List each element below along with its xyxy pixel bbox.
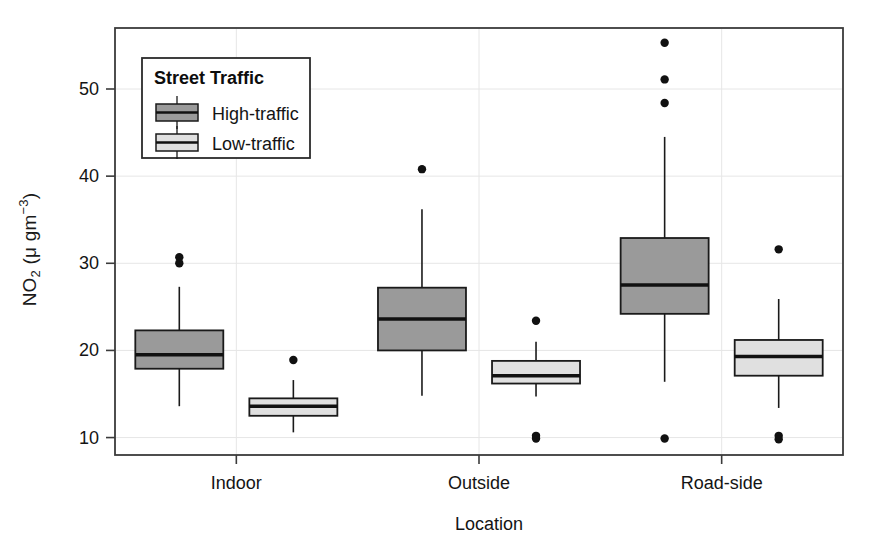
y-axis-title-base: NO xyxy=(19,278,40,307)
outlier-point xyxy=(774,435,782,443)
outlier-point xyxy=(289,356,297,364)
x-tick-label-road-side: Road-side xyxy=(681,473,763,493)
boxplot-high-traffic-road-side xyxy=(621,39,709,443)
x-tick-label-outside: Outside xyxy=(448,473,510,493)
outlier-point xyxy=(774,245,782,253)
legend-item-label: High-traffic xyxy=(212,104,299,124)
legend-title: Street Traffic xyxy=(154,68,264,88)
outlier-point xyxy=(660,39,668,47)
y-axis-title-unit: gm xyxy=(19,215,40,247)
y-axis-title-sup: −3 xyxy=(16,200,31,215)
y-axis-title-unit-open: ( xyxy=(19,258,40,270)
box xyxy=(492,361,580,384)
y-axis-title-sub: 2 xyxy=(29,270,44,277)
legend-item-label: Low-traffic xyxy=(212,134,295,154)
boxplot-low-traffic-indoor xyxy=(249,356,337,433)
boxplot-low-traffic-road-side xyxy=(735,245,823,443)
y-axis-title-mu: μ xyxy=(19,247,40,258)
y-tick-label-50: 50 xyxy=(79,79,99,99)
y-axis-title: NO2 (μ gm−3) xyxy=(10,150,50,350)
outlier-point xyxy=(660,434,668,442)
y-tick-label-10: 10 xyxy=(79,428,99,448)
outlier-point xyxy=(418,165,426,173)
boxplot-low-traffic-outside xyxy=(492,317,580,443)
outlier-point xyxy=(660,99,668,107)
box xyxy=(621,238,709,314)
y-axis-title-text: NO2 (μ gm−3) xyxy=(16,193,43,307)
box xyxy=(135,330,223,368)
y-axis-title-unit-close: ) xyxy=(19,193,40,200)
y-tick-label-20: 20 xyxy=(79,340,99,360)
outlier-point xyxy=(532,434,540,442)
boxplot-high-traffic-outside xyxy=(378,165,466,396)
y-tick-label-30: 30 xyxy=(79,253,99,273)
x-tick-label-indoor: Indoor xyxy=(211,473,262,493)
chart-legend: Street TrafficHigh-trafficLow-traffic xyxy=(142,58,310,159)
outlier-point xyxy=(532,317,540,325)
y-tick-label-40: 40 xyxy=(79,166,99,186)
boxplot-svg: 1020304050IndoorOutsideRoad-side Street … xyxy=(0,0,882,547)
boxplot-high-traffic-indoor xyxy=(135,253,223,406)
outlier-point xyxy=(175,259,183,267)
boxplot-figure: 1020304050IndoorOutsideRoad-side Street … xyxy=(0,0,882,547)
x-axis-title: Location xyxy=(455,514,523,534)
outlier-point xyxy=(660,75,668,83)
